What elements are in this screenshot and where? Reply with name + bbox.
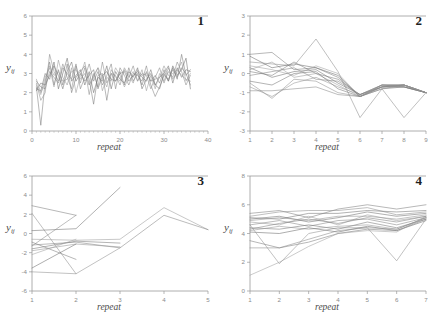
svg-text:40: 40 [205,136,212,143]
svg-text:-1: -1 [239,89,245,96]
panel-3-plot: -6-4-2024612345 [0,160,218,321]
svg-text:3: 3 [242,12,246,19]
svg-text:1: 1 [30,296,34,303]
svg-text:2: 2 [74,296,78,303]
panel-1-plot: 0123456010203040 [0,0,218,161]
svg-text:0: 0 [24,127,28,134]
panel-4-xlabel: repeat [297,303,357,313]
panel-4: 024681234567 4 yij repeat [218,160,436,320]
panel-1-xlabel: repeat [79,143,139,153]
panel-1-number: 1 [198,14,205,27]
svg-text:9: 9 [424,136,428,143]
svg-text:30: 30 [161,136,168,143]
svg-text:0: 0 [24,230,28,237]
svg-text:6: 6 [24,12,28,19]
svg-text:0: 0 [242,287,246,294]
panel-2-ylabel: yij [224,62,232,75]
panel-3: -6-4-2024612345 3 yij repeat [0,160,218,320]
svg-text:-2: -2 [239,108,245,115]
svg-text:6: 6 [242,201,246,208]
svg-text:1: 1 [248,296,252,303]
svg-text:4: 4 [162,296,166,303]
panel-4-number: 4 [416,174,423,187]
svg-text:4: 4 [24,191,28,198]
panel-1-ylabel: yij [6,62,14,75]
svg-text:-4: -4 [21,268,27,275]
svg-text:2: 2 [270,136,274,143]
svg-text:7: 7 [380,136,384,143]
svg-text:0: 0 [242,70,246,77]
svg-text:2: 2 [24,89,28,96]
panel-3-xlabel: repeat [79,303,139,313]
svg-text:7: 7 [424,296,428,303]
panel-2-xlabel: repeat [297,143,357,153]
svg-text:3: 3 [307,296,311,303]
panel-1: 0123456010203040 1 yij repeat [0,0,218,160]
panel-3-ylabel: yij [6,222,14,235]
svg-text:8: 8 [402,136,406,143]
svg-text:1: 1 [248,136,252,143]
svg-text:4: 4 [24,51,28,58]
panel-4-ylabel: yij [224,222,232,235]
svg-text:6: 6 [24,172,28,179]
svg-text:10: 10 [73,136,80,143]
svg-text:5: 5 [206,296,210,303]
svg-text:6: 6 [358,136,362,143]
svg-text:-3: -3 [239,127,245,134]
panel-3-number: 3 [198,174,205,187]
svg-text:-2: -2 [21,249,27,256]
svg-text:1: 1 [242,51,246,58]
svg-text:5: 5 [366,296,370,303]
svg-text:5: 5 [24,31,28,38]
svg-text:2: 2 [242,31,246,38]
panel-2-plot: -3-2-10123123456789 [218,0,436,161]
panel-2-number: 2 [416,14,423,27]
svg-text:3: 3 [24,70,28,77]
svg-text:3: 3 [292,136,296,143]
svg-text:-6: -6 [21,287,27,294]
panel-2: -3-2-10123123456789 2 yij repeat [218,0,436,160]
svg-text:2: 2 [242,258,246,265]
svg-text:1: 1 [24,108,28,115]
svg-text:4: 4 [242,230,246,237]
svg-text:0: 0 [30,136,34,143]
svg-text:2: 2 [278,296,282,303]
panel-4-plot: 024681234567 [218,160,436,321]
figure-panel-grid: 0123456010203040 1 yij repeat -3-2-10123… [0,0,436,321]
svg-text:2: 2 [24,211,28,218]
svg-text:8: 8 [242,172,246,179]
svg-text:6: 6 [395,296,399,303]
